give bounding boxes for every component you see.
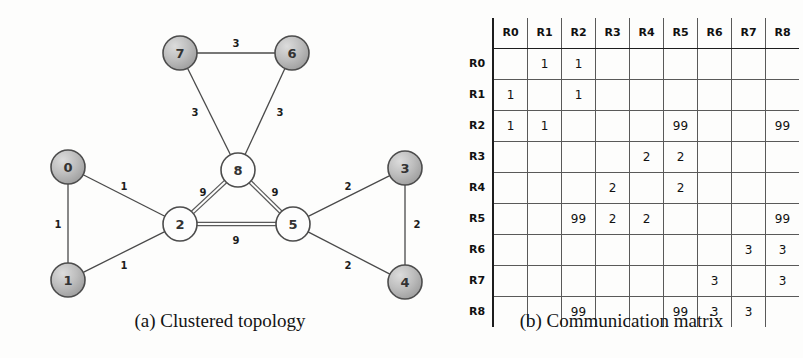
matrix-cell-r6-r5 — [664, 234, 698, 265]
matrix-cell-r2-r6 — [698, 110, 732, 141]
matrix-cell-r2-r2 — [562, 110, 596, 141]
matrix-cell-r6-r2 — [562, 234, 596, 265]
matrix-cell-r6-r3 — [596, 234, 630, 265]
matrix-cell-r5-r4: 2 — [630, 203, 664, 234]
matrix-cell-r6-r1 — [528, 234, 562, 265]
matrix-header-row: R0R1R2R3R4R5R6R7R8 — [462, 18, 799, 48]
matrix-cell-r3-r4: 2 — [630, 141, 664, 172]
matrix-cell-r5-r2: 99 — [562, 203, 596, 234]
matrix-cell-r3-r0 — [493, 141, 528, 172]
matrix-cell-r0-r5 — [664, 48, 698, 79]
matrix-col-header-r6: R6 — [698, 18, 732, 48]
graph-node-7[interactable]: 7 — [163, 36, 197, 70]
matrix-cell-r1-r2: 1 — [562, 79, 596, 110]
matrix-row-header-r1: R1 — [462, 79, 493, 110]
graph-node-3[interactable]: 3 — [388, 151, 422, 185]
matrix-cell-r4-r5: 2 — [664, 172, 698, 203]
graph-node-5[interactable]: 5 — [276, 207, 310, 241]
matrix-cell-r2-r7 — [732, 110, 766, 141]
graph-node-6[interactable]: 6 — [275, 36, 309, 70]
matrix-col-header-r1: R1 — [528, 18, 562, 48]
matrix-row: R111 — [462, 79, 799, 110]
edge-weight-6-8: 3 — [277, 107, 284, 118]
edge-weight-5-3: 2 — [345, 181, 352, 192]
matrix-row-header-r0: R0 — [462, 48, 493, 79]
graph-node-4[interactable]: 4 — [388, 265, 422, 299]
edge-weight-7-8: 3 — [192, 107, 199, 118]
matrix-cell-r7-r3 — [596, 265, 630, 296]
matrix-cell-r7-r1 — [528, 265, 562, 296]
matrix-cell-r3-r6 — [698, 141, 732, 172]
matrix-col-header-r3: R3 — [596, 18, 630, 48]
node-label-7: 7 — [175, 46, 184, 61]
matrix-row-header-r4: R4 — [462, 172, 493, 203]
edge-weight-0-2: 1 — [121, 181, 128, 192]
figure-clustered-topology: 333111222999 012345678 (a) Clustered top… — [0, 0, 440, 358]
node-label-4: 4 — [400, 275, 409, 290]
matrix-cell-r5-r1 — [528, 203, 562, 234]
matrix-cell-r4-r1 — [528, 172, 562, 203]
matrix-cell-r1-r7 — [732, 79, 766, 110]
matrix-cell-r2-r8: 99 — [766, 110, 800, 141]
matrix-cell-r0-r7 — [732, 48, 766, 79]
matrix-cell-r6-r8: 3 — [766, 234, 800, 265]
node-label-1: 1 — [63, 273, 72, 288]
matrix-cell-r5-r6 — [698, 203, 732, 234]
matrix-cell-r7-r8: 3 — [766, 265, 800, 296]
matrix-cell-r7-r6: 3 — [698, 265, 732, 296]
matrix-cell-r2-r4 — [630, 110, 664, 141]
graph-node-8[interactable]: 8 — [221, 153, 255, 187]
graph-node-0[interactable]: 0 — [51, 150, 85, 184]
matrix-row-header-r3: R3 — [462, 141, 493, 172]
matrix-row: R733 — [462, 265, 799, 296]
matrix-cell-r1-r6 — [698, 79, 732, 110]
matrix-cell-r3-r1 — [528, 141, 562, 172]
matrix-cell-r0-r0 — [493, 48, 528, 79]
matrix-row-header-r5: R5 — [462, 203, 493, 234]
matrix-cell-r5-r0 — [493, 203, 528, 234]
node-label-5: 5 — [288, 217, 297, 232]
matrix-cell-r2-r0: 1 — [493, 110, 528, 141]
matrix-row: R5992299 — [462, 203, 799, 234]
graph-edge-2-8 — [191, 180, 226, 213]
matrix-cell-r1-r1 — [528, 79, 562, 110]
node-label-3: 3 — [400, 161, 409, 176]
matrix-body: R011R111R2119999R322R422R5992299R633R733… — [462, 48, 799, 327]
matrix-row: R011 — [462, 48, 799, 79]
topology-graph: 333111222999 012345678 — [0, 0, 440, 305]
matrix-cell-r0-r3 — [596, 48, 630, 79]
matrix-cell-r6-r4 — [630, 234, 664, 265]
edge-weight-3-4: 2 — [414, 219, 421, 230]
matrix-cell-r1-r0: 1 — [493, 79, 528, 110]
caption-figure-a: (a) Clustered topology — [0, 310, 440, 332]
matrix-cell-r3-r3 — [596, 141, 630, 172]
matrix-row-header-r6: R6 — [462, 234, 493, 265]
matrix-col-header-r2: R2 — [562, 18, 596, 48]
matrix-cell-r0-r2: 1 — [562, 48, 596, 79]
matrix-cell-r0-r8 — [766, 48, 800, 79]
matrix-row: R322 — [462, 141, 799, 172]
matrix-cell-r3-r8 — [766, 141, 800, 172]
matrix-header: R0R1R2R3R4R5R6R7R8 — [462, 18, 799, 48]
matrix-cell-r1-r4 — [630, 79, 664, 110]
matrix-cell-r0-r6 — [698, 48, 732, 79]
communication-matrix-table: R0R1R2R3R4R5R6R7R8 R011R111R2119999R322R… — [462, 18, 799, 327]
matrix-cell-r6-r7: 3 — [732, 234, 766, 265]
matrix-cell-r1-r5 — [664, 79, 698, 110]
matrix-cell-r7-r5 — [664, 265, 698, 296]
matrix-cell-r3-r7 — [732, 141, 766, 172]
matrix-cell-r0-r4 — [630, 48, 664, 79]
edge-weight-2-5: 9 — [233, 235, 240, 246]
matrix-cell-r3-r2 — [562, 141, 596, 172]
node-label-2: 2 — [175, 217, 184, 232]
matrix-row-header-r2: R2 — [462, 110, 493, 141]
figure-communication-matrix: R0R1R2R3R4R5R6R7R8 R011R111R2119999R322R… — [440, 0, 803, 358]
graph-node-2[interactable]: 2 — [163, 207, 197, 241]
matrix-cell-r5-r8: 99 — [766, 203, 800, 234]
matrix-cell-r4-r8 — [766, 172, 800, 203]
matrix-col-header-r8: R8 — [766, 18, 800, 48]
matrix-col-header-r4: R4 — [630, 18, 664, 48]
graph-node-1[interactable]: 1 — [51, 263, 85, 297]
matrix-cell-r1-r8 — [766, 79, 800, 110]
matrix-cell-r2-r3 — [596, 110, 630, 141]
